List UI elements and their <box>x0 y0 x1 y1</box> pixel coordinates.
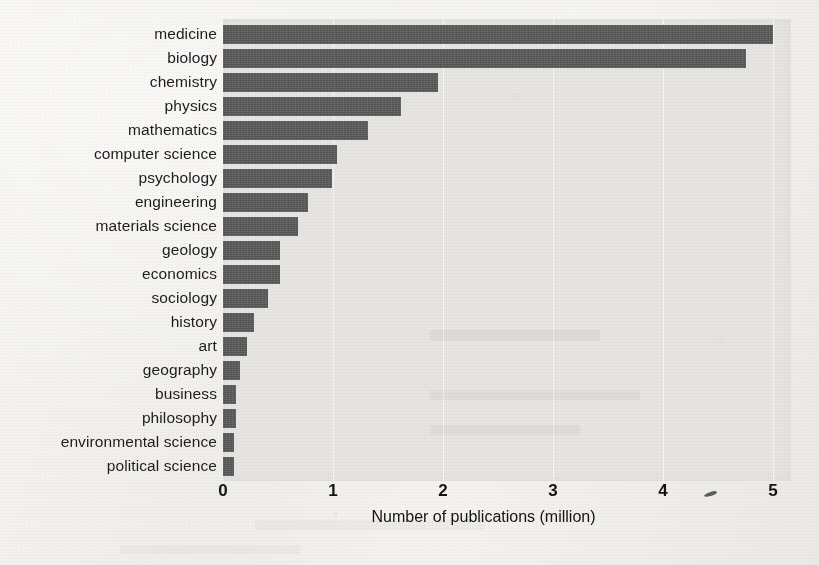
x-tick-5: 5 <box>753 481 793 501</box>
x-axis-title: Number of publications (million) <box>0 508 819 526</box>
bar-physics[interactable] <box>223 97 401 116</box>
ink-speck <box>704 490 718 497</box>
bar-economics[interactable] <box>223 265 280 284</box>
category-label-business: business <box>155 382 217 406</box>
bar-biology[interactable] <box>223 49 746 68</box>
bar-geography[interactable] <box>223 361 240 380</box>
category-label-sociology: sociology <box>151 286 217 310</box>
bar-row: art <box>0 334 819 358</box>
category-label-computer-science: computer science <box>94 142 217 166</box>
bar-environmental-science[interactable] <box>223 433 234 452</box>
x-tick-4: 4 <box>643 481 683 501</box>
bar-business[interactable] <box>223 385 236 404</box>
category-label-art: art <box>199 334 217 358</box>
bar-art[interactable] <box>223 337 247 356</box>
x-tick-3: 3 <box>533 481 573 501</box>
bar-engineering[interactable] <box>223 193 308 212</box>
category-label-biology: biology <box>167 46 217 70</box>
bar-row: medicine <box>0 22 819 46</box>
bar-row: materials science <box>0 214 819 238</box>
bar-philosophy[interactable] <box>223 409 236 428</box>
bar-row: environmental science <box>0 430 819 454</box>
bar-sociology[interactable] <box>223 289 268 308</box>
category-label-geography: geography <box>143 358 217 382</box>
category-label-chemistry: chemistry <box>150 70 217 94</box>
category-label-geology: geology <box>162 238 217 262</box>
bar-row: mathematics <box>0 118 819 142</box>
category-label-history: history <box>171 310 217 334</box>
bar-row: sociology <box>0 286 819 310</box>
bar-row: biology <box>0 46 819 70</box>
bar-history[interactable] <box>223 313 254 332</box>
x-tick-2: 2 <box>423 481 463 501</box>
bar-row: psychology <box>0 166 819 190</box>
category-label-physics: physics <box>165 94 217 118</box>
bar-chemistry[interactable] <box>223 73 438 92</box>
category-label-engineering: engineering <box>135 190 217 214</box>
bar-row: philosophy <box>0 406 819 430</box>
bar-row: geology <box>0 238 819 262</box>
bar-row: history <box>0 310 819 334</box>
bar-medicine[interactable] <box>223 25 773 44</box>
category-label-political-science: political science <box>107 454 217 478</box>
bar-row: political science <box>0 454 819 478</box>
category-label-materials-science: materials science <box>96 214 217 238</box>
x-axis-title-text: Number of publications (million) <box>223 508 595 526</box>
category-label-psychology: psychology <box>138 166 217 190</box>
category-label-economics: economics <box>142 262 217 286</box>
bar-row: computer science <box>0 142 819 166</box>
bar-computer-science[interactable] <box>223 145 337 164</box>
bar-row: chemistry <box>0 70 819 94</box>
category-label-environmental-science: environmental science <box>61 430 217 454</box>
x-tick-1: 1 <box>313 481 353 501</box>
bar-row: business <box>0 382 819 406</box>
chart-page: medicinebiologychemistryphysicsmathemati… <box>0 0 819 565</box>
category-label-medicine: medicine <box>154 22 217 46</box>
bar-row: geography <box>0 358 819 382</box>
category-label-philosophy: philosophy <box>142 406 217 430</box>
category-label-mathematics: mathematics <box>128 118 217 142</box>
bar-row: economics <box>0 262 819 286</box>
bar-row: physics <box>0 94 819 118</box>
bar-materials-science[interactable] <box>223 217 298 236</box>
bar-row: engineering <box>0 190 819 214</box>
bar-chart: medicinebiologychemistryphysicsmathemati… <box>0 0 819 565</box>
bar-geology[interactable] <box>223 241 280 260</box>
bar-political-science[interactable] <box>223 457 234 476</box>
bar-mathematics[interactable] <box>223 121 368 140</box>
x-tick-0: 0 <box>203 481 243 501</box>
bar-psychology[interactable] <box>223 169 332 188</box>
